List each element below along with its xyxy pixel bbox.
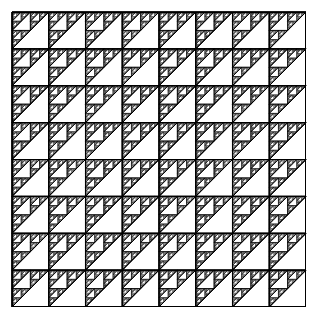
fractal-tiling-canvas [0, 0, 317, 321]
figure-root [0, 0, 317, 321]
